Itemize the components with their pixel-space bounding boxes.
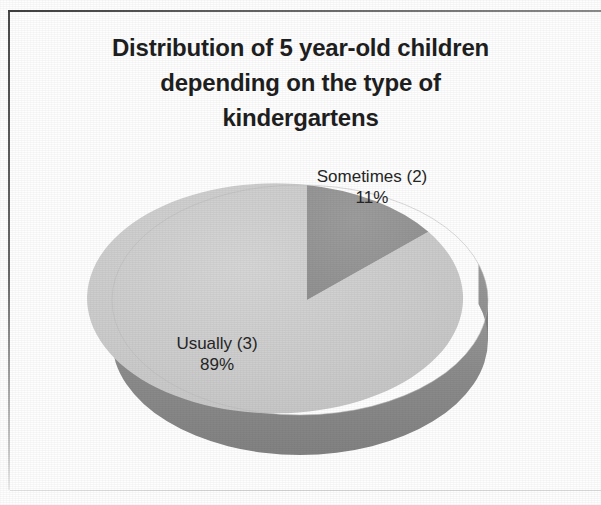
pie-label-usually-name: Usually (3) xyxy=(122,333,312,354)
pie-chart-svg xyxy=(0,0,601,505)
pie-chart-3d xyxy=(0,0,601,505)
pie-label-sometimes: Sometimes (2) 11% xyxy=(262,166,482,208)
pie-label-sometimes-percent: 11% xyxy=(262,187,482,208)
pie-label-usually-percent: 89% xyxy=(122,354,312,375)
pie-label-sometimes-name: Sometimes (2) xyxy=(262,166,482,187)
chart-figure: Distribution of 5 year-old children depe… xyxy=(0,0,601,505)
pie-label-usually: Usually (3) 89% xyxy=(122,333,312,375)
